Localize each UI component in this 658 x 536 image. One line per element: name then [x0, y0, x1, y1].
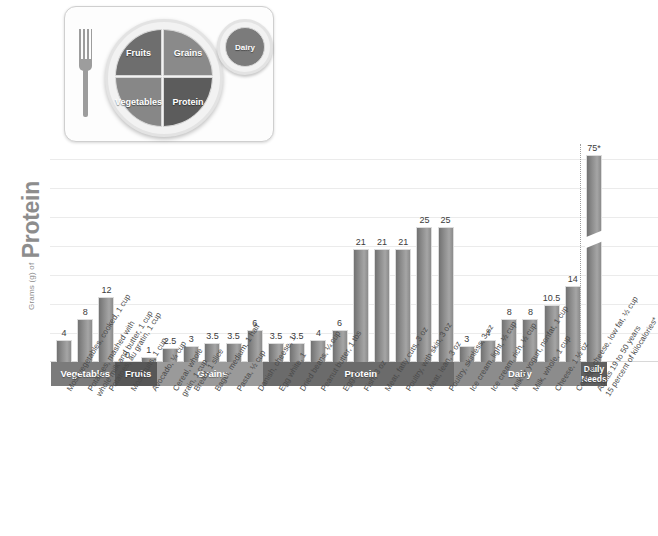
bar — [374, 249, 390, 362]
plate-segment-dairy: Dairy — [217, 19, 273, 75]
bar-value-label: 21 — [377, 237, 387, 247]
bar-value-label: 3.5 — [270, 331, 283, 341]
y-axis-title-main: Protein — [18, 181, 44, 258]
chart-page: Fruits Grains Vegetables Protein Dairy G… — [0, 0, 658, 536]
plate-segment-vegetables: Vegetables — [115, 77, 162, 127]
bar-value-label: 14 — [568, 274, 578, 284]
bar — [56, 340, 72, 362]
bar-value-label: 6 — [337, 318, 342, 328]
myplate-card: Fruits Grains Vegetables Protein Dairy — [64, 6, 274, 142]
bar-value-label: 12 — [101, 285, 111, 295]
bar-value-label: 4 — [61, 328, 66, 338]
bar-value-label: 3.5 — [227, 331, 240, 341]
bar-value-label: 25 — [419, 215, 429, 225]
bar-value-label: 8 — [83, 307, 88, 317]
y-axis-title: Grams (g) of Protein — [18, 151, 45, 341]
bar-value-label: 3.5 — [206, 331, 219, 341]
plate-segment-protein: Protein — [163, 77, 213, 127]
plate-segment-fruits: Fruits — [115, 29, 162, 76]
bar-value-label: 75* — [587, 143, 601, 153]
bar-value-label: 25 — [441, 215, 451, 225]
bar-value-label: 10.5 — [543, 293, 561, 303]
bar-value-label: 8 — [528, 307, 533, 317]
axis-break-notch — [585, 229, 607, 249]
bar-value-label: 3 — [189, 334, 194, 344]
fork-icon — [79, 29, 92, 117]
bar-value-label: 3 — [464, 334, 469, 344]
bar-value-label: 4 — [316, 328, 321, 338]
x-axis-tick-labels: Most vegetables, cooked, 1 cupPotatoes, … — [0, 388, 658, 536]
bar — [586, 155, 602, 362]
plate-icon: Fruits Grains Vegetables Protein — [105, 19, 223, 137]
bar-value-label: 21 — [398, 237, 408, 247]
bar-value-label: 21 — [356, 237, 366, 247]
plate-segment-grains: Grains — [163, 29, 213, 76]
bar-value-label: 8 — [507, 307, 512, 317]
y-axis-title-units: Grams (g) of — [27, 263, 36, 310]
plate-segment-dairy-label: Dairy — [225, 27, 265, 67]
daily-needs-divider — [580, 144, 581, 362]
